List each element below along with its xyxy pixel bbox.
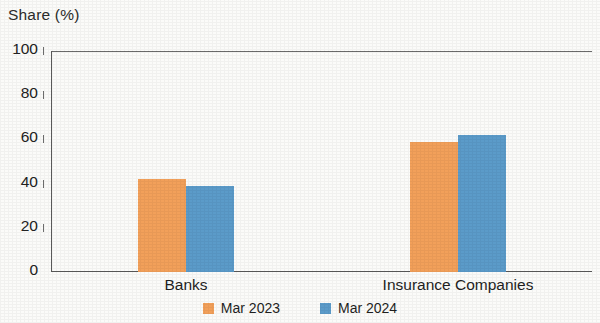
x-axis-category-label: Banks	[164, 276, 207, 294]
x-axis-category-label: Insurance Companies	[383, 276, 534, 294]
y-axis-tick-label: 60	[21, 128, 38, 146]
legend-swatch-icon	[203, 303, 214, 314]
bar-banks-mar-2024	[186, 186, 234, 272]
y-axis-tick-mark	[43, 135, 51, 143]
legend-item: Mar 2023	[203, 300, 280, 316]
legend-swatch-icon	[320, 303, 331, 314]
legend-item: Mar 2024	[320, 300, 397, 316]
y-axis-tick-label: 100	[12, 40, 38, 58]
y-axis-tick-mark	[43, 91, 51, 99]
bar-insurance-companies-mar-2024	[458, 135, 506, 272]
y-axis-title: Share (%)	[8, 6, 80, 24]
y-axis-tick-mark	[43, 224, 51, 232]
y-axis-tick-mark	[43, 180, 51, 188]
y-axis-tick-label: 20	[21, 217, 38, 235]
y-axis-tick-label: 0	[29, 261, 38, 279]
y-axis-tick-label: 80	[21, 84, 38, 102]
bar-insurance-companies-mar-2023	[410, 142, 458, 272]
bar-banks-mar-2023	[138, 179, 186, 272]
legend-label: Mar 2024	[338, 300, 397, 316]
y-axis-tick-mark	[43, 47, 51, 55]
chart-legend: Mar 2023Mar 2024	[0, 300, 600, 316]
y-axis-tick-label: 40	[21, 173, 38, 191]
bar-chart: Share (%) 020406080100 BanksInsurance Co…	[0, 0, 600, 323]
plot-area	[51, 51, 592, 272]
legend-label: Mar 2023	[221, 300, 280, 316]
